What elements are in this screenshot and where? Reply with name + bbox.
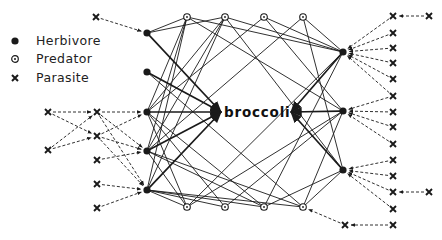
predation-edge: [267, 18, 341, 51]
parasitism-edge: [348, 55, 388, 77]
parasitism-edge: [102, 152, 141, 159]
parasitism-edge: [349, 161, 388, 169]
predator-node: [222, 14, 229, 21]
parasitism-edge: [348, 56, 390, 93]
herbivore-node: [339, 166, 346, 173]
predation-edge: [149, 19, 300, 149]
predator-node: [261, 14, 268, 21]
predation-edge: [227, 19, 341, 167]
parasite-node: [390, 222, 396, 228]
parasite-node: [390, 189, 396, 195]
feeding-edge: [149, 35, 221, 112]
predation-edge: [190, 18, 340, 52]
parasitism-edge: [100, 116, 144, 185]
parasite-node: [390, 206, 396, 212]
feeding-edge: [149, 112, 221, 188]
predator-node: [261, 204, 268, 211]
parasitism-edge: [349, 48, 388, 51]
herbivore-node: [339, 107, 346, 114]
parasitism-edge: [349, 171, 388, 176]
predation-edge: [150, 18, 184, 32]
parasite-node: [390, 93, 396, 99]
parasitism-edge: [348, 114, 389, 141]
parasite-node: [94, 157, 100, 163]
predator-node: [222, 204, 229, 211]
feeding-edge: [291, 111, 340, 112]
parasite-node: [390, 141, 396, 147]
parasitism-edge: [52, 114, 91, 133]
predator-node: [300, 204, 307, 211]
parasitism-edge: [349, 111, 388, 112]
predation-edge: [304, 20, 342, 167]
parasitism-edge: [52, 116, 92, 147]
predation-edge: [150, 152, 262, 205]
herbivore-node: [143, 29, 150, 36]
parasite-node: [390, 76, 396, 82]
predator-node: [184, 14, 191, 21]
parasite-node: [93, 14, 99, 20]
parasite-node: [45, 147, 51, 153]
parasite-node: [94, 109, 100, 115]
parasite-node: [390, 45, 396, 51]
predation-edge: [149, 20, 224, 149]
feeding-edge: [291, 54, 341, 112]
parasite-node: [426, 189, 432, 195]
herbivore-node: [143, 108, 150, 115]
legend-label: Predator: [36, 51, 92, 67]
parasite-node: [390, 109, 396, 115]
parasite-node: [94, 205, 100, 211]
parasite-node: [390, 30, 396, 36]
parasitism-edge: [348, 19, 389, 49]
predation-edge: [266, 19, 341, 108]
broccoli-label: broccoli: [224, 104, 291, 120]
predation-edge: [267, 171, 341, 205]
predator-node: [300, 14, 307, 21]
herbivore-node: [143, 147, 150, 154]
herbivore-node: [143, 186, 150, 193]
legend-label: Parasite: [36, 70, 89, 86]
parasite-node: [390, 124, 396, 130]
parasitism-edge: [100, 140, 143, 186]
parasite-node: [390, 173, 396, 179]
parasite-node: [390, 60, 396, 66]
herbivore-node: [143, 68, 150, 75]
parasitism-edge: [349, 53, 388, 62]
parasitism-edge: [101, 18, 142, 31]
parasite-node: [342, 222, 348, 228]
parasitism-edge: [309, 209, 341, 223]
parasite-node: [45, 109, 51, 115]
filled-circle-icon: [10, 33, 26, 49]
predation-edge: [149, 19, 223, 109]
parasitism-edge: [349, 97, 388, 109]
parasitism-edge: [348, 174, 389, 206]
parasite-node: [426, 13, 432, 19]
parasite-node: [390, 13, 396, 19]
parasitism-edge: [53, 138, 91, 149]
parasite-node: [94, 181, 100, 187]
predator-node: [184, 204, 191, 211]
circled-dot-icon: [10, 51, 26, 67]
parasite-node: [94, 133, 100, 139]
parasitism-edge: [349, 35, 389, 50]
parasitism-edge: [102, 192, 142, 206]
parasitism-edge: [102, 185, 141, 190]
predation-edge: [150, 152, 300, 206]
herbivore-node: [339, 48, 346, 55]
legend-label: Herbivore: [36, 33, 101, 49]
cross-icon: [10, 70, 26, 86]
parasite-node: [390, 157, 396, 163]
